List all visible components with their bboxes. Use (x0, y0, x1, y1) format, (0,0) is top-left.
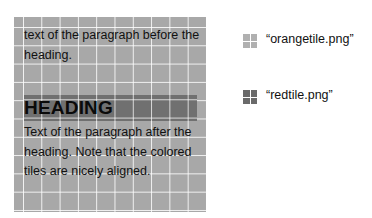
red-tile-icon (243, 90, 257, 104)
paragraph-after: Text of the paragraph after the heading.… (24, 123, 204, 182)
heading: HEADING (24, 94, 113, 122)
paragraph-before: text of the paragraph before the heading… (24, 26, 204, 65)
tiled-panel: text of the paragraph before the heading… (14, 17, 206, 212)
legend-item-orangetile: “orangetile.png” (243, 34, 354, 48)
orange-tile-icon (243, 34, 257, 48)
legend-label: “orangetile.png” (266, 32, 354, 46)
legend-label: “redtile.png” (266, 88, 333, 102)
legend-item-redtile: “redtile.png” (243, 90, 333, 104)
